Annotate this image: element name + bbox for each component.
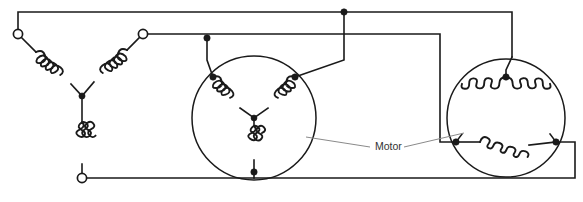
left-wye-coil-a xyxy=(36,51,63,75)
motor-wye-node-left xyxy=(210,74,216,80)
motor-delta-coil-right xyxy=(506,77,551,89)
terminal-top-right[interactable] xyxy=(138,29,147,38)
motor-delta-node-bottom-left xyxy=(453,139,459,145)
motor-delta-node-bottom-right xyxy=(553,139,559,145)
bus-wire-bottom xyxy=(82,142,575,178)
terminal-top-left[interactable] xyxy=(13,29,22,38)
motor-label: Motor xyxy=(375,140,402,152)
schematic-canvas: Motor xyxy=(0,0,583,202)
left-wye-coil-b xyxy=(100,49,127,73)
branch-wire-to-middle-right xyxy=(295,12,344,77)
motor-wye-node-bottom xyxy=(251,169,257,175)
left-wye-star-point xyxy=(79,93,85,99)
left-wye-coil-c xyxy=(76,122,95,137)
schematic-diagram: Motor xyxy=(0,0,583,202)
motor-delta-lead-bottom-right xyxy=(529,142,556,145)
bus-node-top xyxy=(341,9,347,15)
motor-leader-line-left xyxy=(306,137,370,147)
bus-node-second xyxy=(204,35,210,41)
motor-wye-node-right xyxy=(292,74,298,80)
cropped-caption-row xyxy=(0,196,583,202)
motor-wye-coil-a xyxy=(213,76,234,98)
motor-delta-coil-left xyxy=(461,77,506,89)
terminal-bottom[interactable] xyxy=(77,173,86,182)
motor-delta-coil-bottom xyxy=(480,137,528,157)
bus-wire-second xyxy=(143,34,456,142)
motor-delta-node-apex xyxy=(503,74,509,80)
branch-wire-to-middle-left xyxy=(207,38,213,77)
motor-wye-coil-c xyxy=(248,126,265,141)
motor-wye-coil-b xyxy=(274,76,295,98)
motor-wye-star-point xyxy=(251,115,257,121)
